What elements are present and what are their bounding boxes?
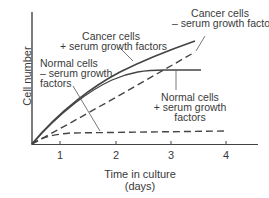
x-tick-1: 1 xyxy=(57,149,63,161)
series-normal-minus-serum xyxy=(32,131,226,144)
annotation-line: factors xyxy=(40,78,112,88)
x-tick-3: 3 xyxy=(168,149,174,161)
leader-cancer-minus xyxy=(196,36,205,51)
x-axis-label-line1: Time in culture xyxy=(95,169,185,179)
annotation-cancer-plus-serum: Cancer cells + serum growth factors xyxy=(60,31,162,51)
x-axis-label: Time in culture (days) xyxy=(95,169,185,191)
x-tick-2: 2 xyxy=(113,149,119,161)
annotation-normal-plus-serum: Normal cells + serum growth factors xyxy=(150,92,230,122)
annotation-normal-minus-serum: Normal cells – serum growth factors xyxy=(40,58,112,88)
annotation-line: – serum growth factors xyxy=(172,18,268,28)
x-ticks xyxy=(60,141,226,144)
annotation-line: factors xyxy=(150,112,230,122)
annotation-cancer-minus-serum: Cancer cells – serum growth factors xyxy=(172,8,268,28)
x-tick-4: 4 xyxy=(223,149,229,161)
y-axis-label: Cell number xyxy=(21,41,33,111)
x-axis-label-line2: (days) xyxy=(95,181,185,191)
annotation-line: + serum growth factors xyxy=(60,41,162,51)
